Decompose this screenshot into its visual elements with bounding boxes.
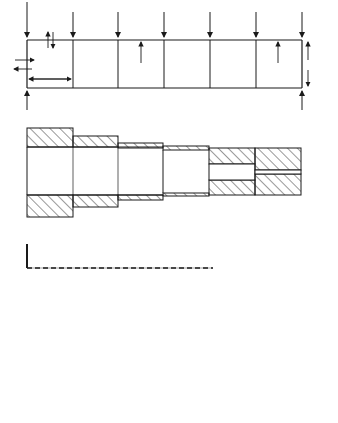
panel-b-chord-sections (27, 128, 301, 217)
panel-c-force-diagram (27, 244, 213, 268)
truss-figure (0, 0, 338, 423)
panel-a-truss (14, 2, 308, 110)
